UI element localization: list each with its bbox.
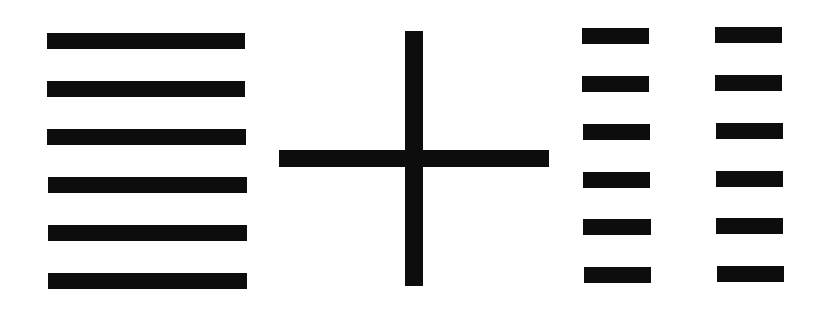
plus-vertical-bar bbox=[405, 31, 423, 286]
broken-line-segment bbox=[583, 219, 651, 235]
solid-line bbox=[47, 81, 245, 97]
broken-line-segment bbox=[584, 267, 651, 283]
broken-line-segment bbox=[582, 76, 649, 92]
solid-line bbox=[48, 273, 247, 289]
broken-line-segment bbox=[715, 75, 782, 91]
broken-line-segment bbox=[583, 124, 650, 140]
broken-line-segment bbox=[583, 172, 650, 188]
solid-lines-group bbox=[47, 33, 247, 289]
broken-lines-group bbox=[582, 27, 784, 283]
broken-line-segment bbox=[717, 266, 784, 282]
broken-line-segment bbox=[716, 123, 783, 139]
solid-line bbox=[48, 225, 247, 241]
plus-sign bbox=[279, 31, 549, 286]
solid-line bbox=[47, 33, 245, 49]
broken-line-segment bbox=[716, 218, 783, 234]
broken-line-segment bbox=[715, 27, 782, 43]
broken-line-segment bbox=[716, 171, 783, 187]
solid-line bbox=[47, 129, 246, 145]
broken-line-segment bbox=[582, 28, 649, 44]
solid-line bbox=[48, 177, 247, 193]
diagram-canvas bbox=[0, 0, 826, 309]
